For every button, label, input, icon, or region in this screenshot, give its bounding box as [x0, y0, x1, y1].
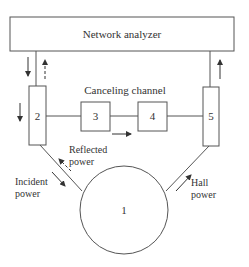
incident-power-arrow-icon — [52, 172, 65, 186]
network-analyzer-label: Network analyzer — [83, 28, 162, 40]
network-analyzer-box: Network analyzer — [10, 17, 234, 51]
block-5: 5 — [203, 87, 219, 146]
sample-1-label: 1 — [121, 204, 127, 216]
block-3: 3 — [81, 102, 110, 131]
block-4-label: 4 — [150, 110, 156, 122]
reflected-label-line2: power — [69, 156, 95, 167]
reflected-label-line1: Reflected — [69, 144, 107, 155]
block-5-label: 5 — [208, 110, 214, 122]
block-2-label: 2 — [35, 110, 41, 122]
canceling-channel-label: Canceling channel — [84, 84, 166, 96]
block-4: 4 — [138, 102, 167, 131]
hall-power-arrow-icon — [176, 175, 191, 191]
sample-1: 1 — [80, 166, 168, 254]
block-2: 2 — [29, 86, 46, 145]
hall-label-line1: Hall — [191, 177, 208, 188]
diagram-canvas: Network analyzer Canceling channel 2 3 4… — [0, 0, 249, 267]
incident-label-line1: Incident — [15, 176, 48, 187]
block-3-label: 3 — [93, 110, 99, 122]
hall-label-line2: power — [191, 189, 217, 200]
incident-label-line2: power — [15, 188, 41, 199]
